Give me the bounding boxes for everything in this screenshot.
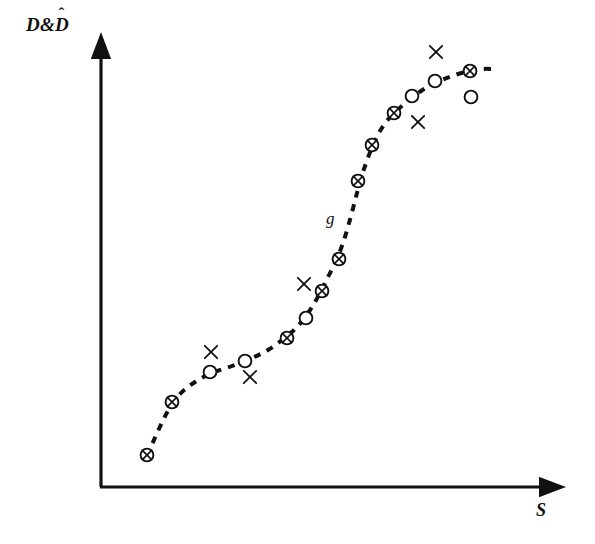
curve-annotation-g: g (326, 209, 335, 229)
y-axis-label-base: D& (26, 14, 55, 35)
y-axis-label: D&ˆD (26, 14, 69, 36)
x-axis-label: S (536, 500, 546, 521)
data-point-circle (465, 91, 478, 104)
data-point-circle (204, 366, 217, 379)
data-point-circle (429, 75, 442, 88)
fitted-curve-g (147, 69, 492, 456)
circumflex-accent-icon: ˆ (59, 5, 65, 22)
marker-series-1 (141, 65, 477, 462)
figure-canvas: D&ˆD S g (0, 0, 595, 544)
curve-path-g (147, 69, 492, 456)
marker-series-2 (204, 75, 478, 379)
data-point-circle (239, 355, 252, 368)
axes (100, 56, 542, 487)
y-axis-label-hatted: ˆD (55, 14, 69, 36)
data-point-circle (406, 90, 419, 103)
data-point-circle (300, 312, 313, 325)
data-markers (141, 46, 478, 462)
plot-area (0, 0, 595, 544)
